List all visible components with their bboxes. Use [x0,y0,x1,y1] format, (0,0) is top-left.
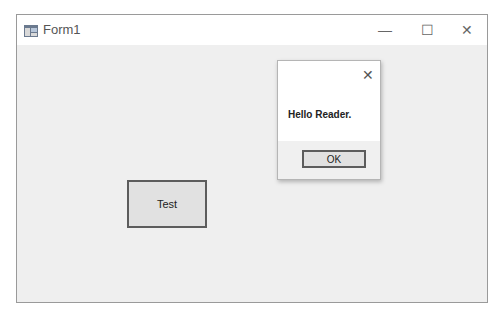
close-icon: ✕ [362,67,374,83]
message-box-footer: OK [278,141,380,179]
maximize-icon: ☐ [421,22,434,38]
form1-window: Form1 — ☐ ✕ Test [16,14,488,303]
ok-button[interactable]: OK [302,150,366,168]
minimize-icon: — [378,22,392,38]
test-button[interactable]: Test [127,180,207,228]
message-text: Hello Reader. [288,109,351,120]
close-button[interactable]: ✕ [447,15,487,45]
minimize-button[interactable]: — [365,15,405,45]
message-box-dialog: ✕ Hello Reader. OK [277,60,381,180]
message-box-close-button[interactable]: ✕ [362,67,374,83]
form-app-icon [24,23,38,35]
form-client-area: Test [17,45,487,302]
title-bar[interactable]: Form1 — ☐ ✕ [17,15,487,45]
maximize-button[interactable]: ☐ [407,15,447,45]
close-icon: ✕ [461,22,473,38]
window-title: Form1 [43,22,81,37]
